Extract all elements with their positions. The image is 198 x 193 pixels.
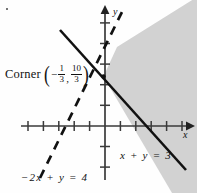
corner-coordinates: − 1 3 , 10 3: [51, 64, 82, 84]
dashed-line-minus-2x-plus-y-equals-4: [40, 12, 122, 178]
coordinate-plot: [0, 0, 197, 193]
coordinate-comma: ,: [66, 73, 69, 84]
x-sign: −: [51, 69, 57, 80]
y-axis-arrowhead: [101, 5, 110, 14]
solid-line-equation-label: x + y = 3: [120, 150, 172, 161]
corner-annotation: Corner ( − 1 3 , 10 3 ): [5, 64, 90, 84]
x-denominator: 3: [58, 75, 65, 84]
corner-label-text: Corner: [5, 68, 41, 81]
y-fraction: 10 3: [71, 64, 82, 84]
close-paren: ): [84, 64, 90, 84]
graph-figure: Corner ( − 1 3 , 10 3 ) x + y = 3 −2x + …: [0, 0, 197, 193]
x-numerator: 1: [58, 64, 65, 73]
open-paren: (: [44, 64, 50, 84]
dashed-line-equation-label: −2x + y = 4: [21, 172, 88, 183]
corner-point-marker: [101, 74, 105, 78]
y-axis-label: y: [113, 7, 117, 17]
x-fraction: 1 3: [58, 64, 65, 84]
y-numerator: 10: [71, 64, 82, 73]
shaded-feasible-region: [104, 0, 198, 193]
y-denominator: 3: [73, 75, 80, 84]
x-axis-label: x: [183, 130, 187, 140]
